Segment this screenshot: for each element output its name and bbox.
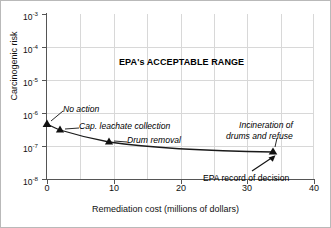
gridline-horizontal (47, 80, 314, 81)
annotation-drum-removal: Drum removal (127, 135, 181, 145)
y-axis-tick (42, 146, 46, 147)
y-axis-tick (42, 113, 46, 114)
x-tick-label: 10 (109, 183, 119, 193)
gridline-vertical (214, 14, 215, 179)
chart-figure: Carcinogenic risk 10-3 10-4 10-5 10-6 10… (0, 0, 331, 228)
annotation-incineration-line1: Incineration of (239, 120, 293, 130)
annotation-incineration-line2: drums and refuse (226, 131, 293, 141)
y-axis-tick (42, 47, 46, 48)
annotation-cap-leachate: Cap. leachate collection (79, 121, 170, 131)
x-tick-label: 0 (44, 183, 49, 193)
x-tick-label: 20 (176, 183, 186, 193)
gridline-vertical (114, 14, 115, 179)
y-axis-line (46, 13, 47, 180)
gridline-vertical (281, 14, 282, 179)
gridline-horizontal (47, 47, 314, 48)
y-tick-exponent: -7 (32, 142, 38, 149)
y-tick-exponent: -4 (32, 43, 38, 50)
gridline-vertical (147, 14, 148, 179)
annotation-epa-record: EPA record of decision (203, 173, 289, 183)
y-tick-exponent: -8 (32, 175, 38, 182)
y-tick-exponent: -5 (32, 76, 38, 83)
y-tick-exponent: -3 (32, 10, 38, 17)
annotation-no-action: No action (63, 104, 99, 114)
x-axis-title: Remediation cost (millions of dollars) (1, 204, 330, 214)
gridline-horizontal (47, 146, 314, 147)
plot-area (47, 14, 314, 179)
y-axis-title: Carcinogenic risk (9, 1, 19, 131)
gridline-vertical (313, 14, 314, 179)
x-tick-label: 40 (309, 183, 319, 193)
gridline-vertical (80, 14, 81, 179)
gridline-vertical (247, 14, 248, 179)
y-axis-tick (42, 80, 46, 81)
x-tick-label: 30 (242, 183, 252, 193)
acceptable-range-label: EPA's ACCEPTABLE RANGE (119, 57, 244, 67)
y-tick-exponent: -6 (32, 109, 38, 116)
y-axis-tick (42, 179, 46, 180)
y-axis-tick (42, 14, 46, 15)
gridline-vertical (181, 14, 182, 179)
